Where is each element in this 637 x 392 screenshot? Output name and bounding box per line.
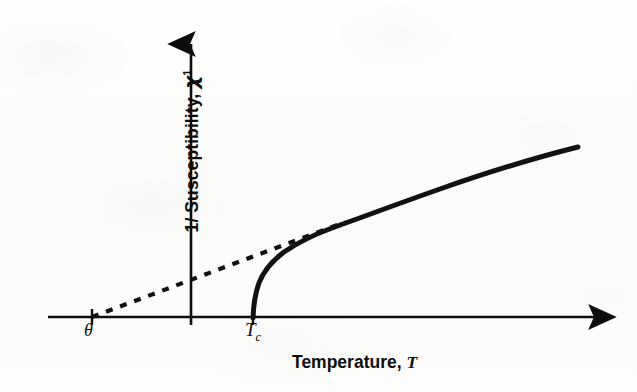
y-axis-label: 1/ Susceptibility, χ1: [179, 61, 203, 241]
tc-base: T: [245, 319, 256, 340]
plot-area: [0, 0, 637, 392]
theta-tick-label: θ: [84, 320, 93, 341]
x-axis-label-symbol: T: [406, 352, 417, 372]
y-axis-label-text: 1/ Susceptibility, χ1: [179, 70, 203, 233]
inverse-susceptibility-curve: [253, 147, 578, 318]
chi-symbol: χ: [179, 76, 203, 89]
tc-subscript: c: [256, 330, 262, 344]
x-axis-label-prefix: Temperature,: [292, 352, 406, 372]
figure-canvas: 1/ Susceptibility, χ1 Temperature, T θ T…: [0, 0, 637, 392]
y-axis-label-prefix: 1/ Susceptibility,: [182, 89, 202, 233]
chi-superscript: 1: [181, 70, 193, 76]
x-axis-label: Temperature, T: [292, 352, 417, 373]
tc-tick-label: Tc: [245, 319, 261, 345]
